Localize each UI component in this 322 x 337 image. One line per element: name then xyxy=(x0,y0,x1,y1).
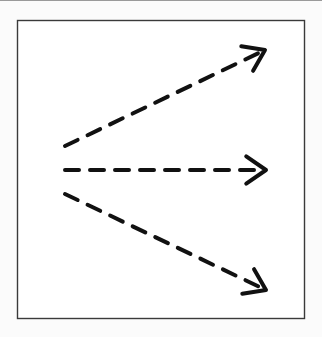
frame-border xyxy=(18,21,305,319)
diverging-arrows-diagram xyxy=(0,0,322,337)
